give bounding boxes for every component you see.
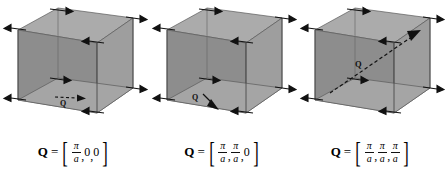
component-fraction: π a [218,141,227,164]
cube-svg-1: Q [0,0,148,130]
three-cube-figure: Q Q = [ π a , 0 , 0 ] [0,0,445,173]
vector-components: π a , π a , 0 [217,141,251,164]
fraction-numerator: π [365,141,374,152]
fraction-denominator: a [72,152,81,164]
component-fraction: π a [72,141,81,164]
q-symbol: Q [331,144,341,160]
component-fraction: π a [378,141,387,164]
q-vector-label: Q [192,93,198,102]
equals-sign: = [344,144,351,160]
fraction-denominator: a [391,152,400,164]
cube-svg-3: Q [297,0,445,130]
panel-1: Q Q = [ π a , 0 , 0 ] [0,0,148,173]
bracket-close: ] [253,139,259,165]
component-scalar: 0 [244,145,250,160]
caption-3: Q = [ π a , π a , π a ] [297,131,445,173]
fraction-denominator: a [378,152,387,164]
caption-2: Q = [ π a , π a , 0 ] [149,131,297,173]
cube-svg-2: Q [149,0,297,130]
bracket-open: [ [62,139,68,165]
fraction-numerator: π [391,141,400,152]
vector-components: π a , 0 , 0 [70,141,100,164]
fraction-denominator: a [365,152,374,164]
fraction-denominator: a [218,152,227,164]
fraction-denominator: a [231,152,240,164]
fraction-numerator: π [72,141,81,152]
cube-diagram-1: Q [0,0,148,130]
fraction-numerator: π [218,141,227,152]
caption-1: Q = [ π a , 0 , 0 ] [0,131,148,173]
cube-diagram-2: Q [149,0,297,130]
component-fraction: π a [365,141,374,164]
bracket-open: [ [209,139,215,165]
component-scalar: 0 [93,145,99,160]
panel-2: Q Q = [ π a , π a , 0 ] [149,0,297,173]
vector-components: π a , π a , π a [363,141,401,164]
equals-sign: = [51,144,58,160]
q-symbol: Q [38,144,48,160]
cube-diagram-3: Q [297,0,445,130]
bracket-close: ] [102,139,108,165]
fraction-numerator: π [231,141,240,152]
bracket-open: [ [355,139,361,165]
fraction-numerator: π [378,141,387,152]
panel-3: Q Q = [ π a , π a , π a [297,0,445,173]
q-vector-label: Q [60,99,66,108]
bracket-close: ] [404,139,410,165]
component-fraction: π a [391,141,400,164]
component-fraction: π a [231,141,240,164]
q-vector-label: Q [355,59,362,69]
q-symbol: Q [184,144,194,160]
equals-sign: = [197,144,204,160]
